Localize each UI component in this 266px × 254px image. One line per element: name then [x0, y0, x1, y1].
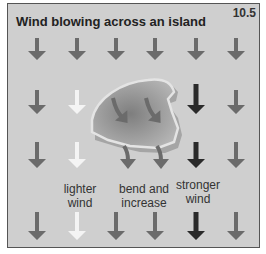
stronger-wind-arrow-icon [187, 84, 205, 114]
bend-wind-arrow-icon [157, 146, 161, 160]
stronger-wind-arrow-icon [187, 142, 205, 168]
wind-arrow-icon [227, 212, 245, 240]
wind-arrow-icon [28, 90, 46, 114]
lighter-wind-arrow-icon [68, 142, 86, 168]
bend-wind-arrowhead-icon [120, 159, 136, 169]
label-bend-text: bend and increase [119, 182, 169, 210]
wind-arrow-icon [68, 38, 86, 60]
wind-arrow-icon [107, 212, 125, 240]
label-lighter-wind-text: lighter wind [64, 182, 97, 210]
label-stronger-wind: stronger wind [172, 178, 224, 206]
wind-arrow-icon [146, 212, 164, 240]
wind-arrow-icon [227, 142, 245, 168]
island-land [92, 80, 178, 148]
stronger-wind-arrow-icon [187, 212, 205, 240]
bend-wind-arrowhead-icon [153, 159, 169, 169]
wind-arrow-icon [227, 38, 245, 60]
bend-wind-arrow-icon [124, 146, 128, 160]
wind-arrow-icon [28, 212, 46, 240]
wind-arrow-icon [28, 38, 46, 60]
lighter-wind-arrow-icon [68, 90, 86, 114]
lighter-wind-arrow-icon [68, 212, 86, 240]
island [92, 80, 182, 153]
wind-arrow-icon [107, 38, 125, 60]
wind-arrow-icon [28, 142, 46, 168]
wind-arrow-icon [187, 38, 205, 60]
wind-arrow-icon [146, 38, 164, 60]
label-stronger-wind-text: stronger wind [176, 178, 220, 206]
label-bend-and-increase: bend and increase [118, 182, 170, 210]
figure-number: 10.5 [233, 6, 256, 20]
label-lighter-wind: lighter wind [60, 182, 100, 210]
diagram-canvas [0, 0, 266, 254]
wind-arrow-icon [227, 90, 245, 114]
figure-title: Wind blowing across an island [16, 14, 206, 29]
